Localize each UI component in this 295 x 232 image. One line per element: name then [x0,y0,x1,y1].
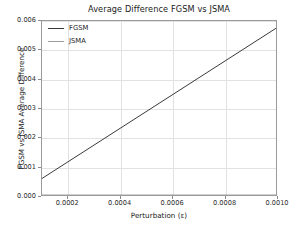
legend-item-fgsm[interactable]: FGSM [48,24,88,32]
series-line-fgsm [42,28,276,178]
x-tick-label: 0.0002 [56,199,79,207]
figure-canvas: Average Difference FGSM vs JSMA 0.0000.0… [0,0,295,232]
x-tick-label: 0.0006 [161,199,184,207]
legend-swatch-jsma-icon [48,41,64,42]
x-tick-label: 0.0010 [265,199,288,207]
legend-swatch-fgsm-icon [48,28,64,29]
x-tick-label: 0.0004 [108,199,131,207]
x-tick-label: 0.0008 [213,199,236,207]
chart-legend: FGSMJSMA [48,24,88,45]
plot-area [41,20,277,196]
x-axis-label: Perturbation (ε) [41,211,277,220]
y-axis-label: FGSM vs JSMA Average Difference [17,21,26,197]
chart-title: Average Difference FGSM vs JSMA [41,4,277,14]
legend-item-jsma[interactable]: JSMA [48,37,88,45]
x-axis-tick-labels: 0.00020.00040.00060.00080.0010 [41,199,277,211]
legend-label: FGSM [69,24,88,32]
legend-label: JSMA [69,37,86,45]
series-layer [42,21,276,195]
